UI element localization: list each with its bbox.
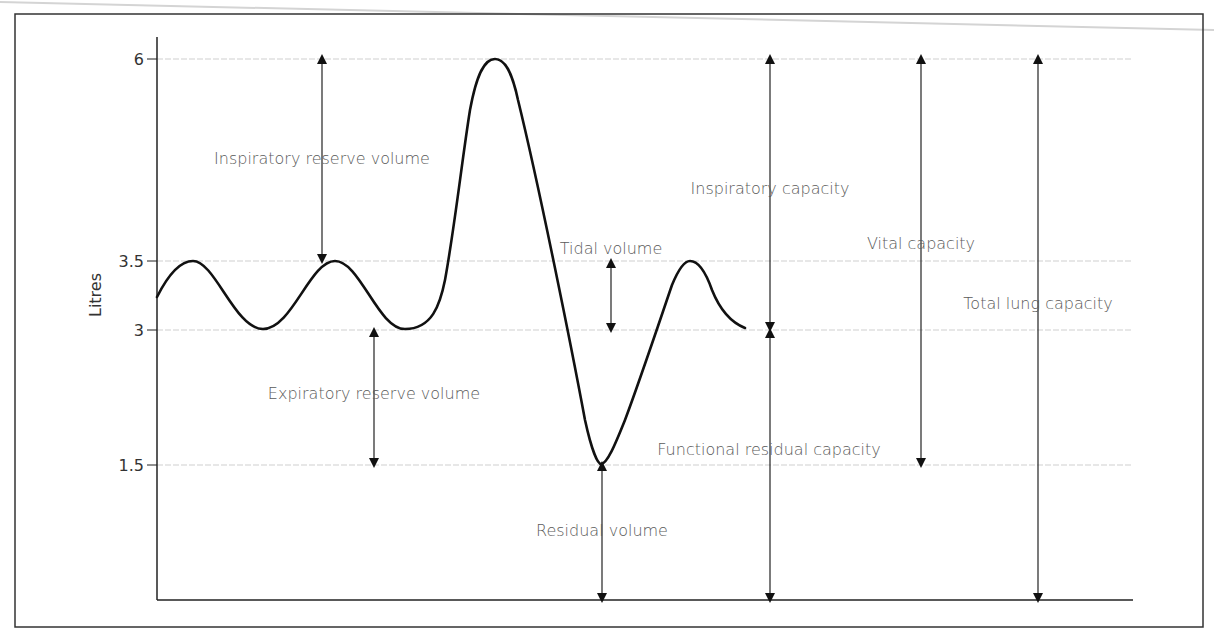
tick-label-3-5: 3.5 bbox=[119, 252, 144, 271]
scan-artifact-line bbox=[0, 2, 1214, 30]
vc-label: Vital capacity bbox=[867, 234, 975, 253]
gridlines bbox=[157, 59, 1133, 465]
lung-volumes-diagram: 6 3.5 3 1.5 Litres Inspiratory reserve v… bbox=[0, 0, 1214, 633]
erv-label: Expiratory reserve volume bbox=[268, 384, 480, 403]
tick-label-3: 3 bbox=[134, 321, 144, 340]
tick-label-1-5: 1.5 bbox=[119, 456, 144, 475]
y-axis-title: Litres bbox=[86, 273, 105, 317]
tlc-label: Total lung capacity bbox=[963, 294, 1112, 313]
rv-label: Residual volume bbox=[536, 521, 668, 540]
ic-label: Inspiratory capacity bbox=[691, 179, 850, 198]
tick-label-6: 6 bbox=[134, 50, 144, 69]
frc-label: Functional residual capacity bbox=[657, 440, 880, 459]
tv-label: Tidal volume bbox=[560, 239, 663, 258]
irv-label: Inspiratory reserve volume bbox=[214, 149, 430, 168]
